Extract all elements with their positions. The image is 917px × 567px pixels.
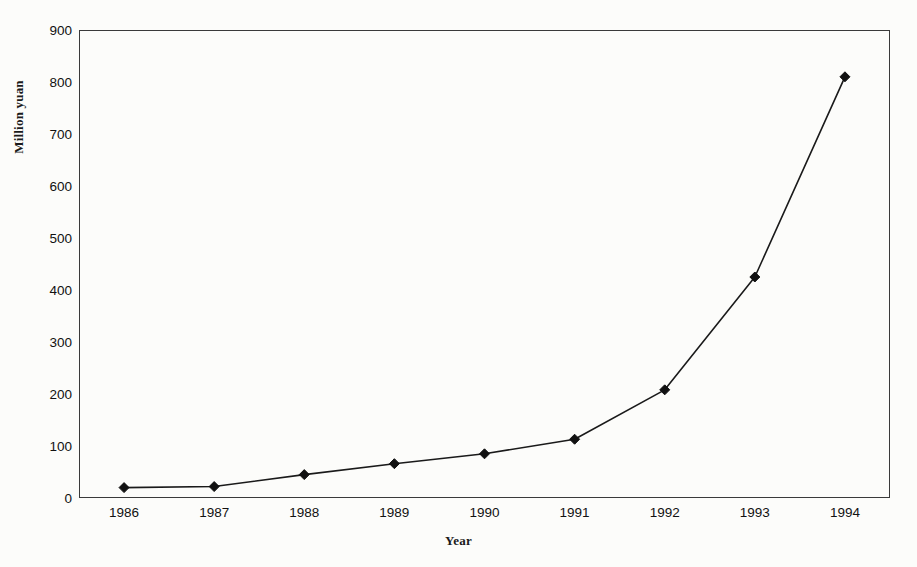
x-axis-tick-label: 1989 <box>349 505 439 520</box>
x-axis-tick-label: 1987 <box>169 505 259 520</box>
x-axis-tick-label: 1993 <box>710 505 800 520</box>
y-axis-tick-label: 700 <box>4 127 72 142</box>
x-axis-tick-label: 1994 <box>800 505 890 520</box>
y-axis-tick-label: 300 <box>4 335 72 350</box>
x-axis-tick-label: 1986 <box>79 505 169 520</box>
y-axis-tick-label: 800 <box>4 75 72 90</box>
x-axis-tick-label: 1988 <box>259 505 349 520</box>
x-axis-tick-label: 1990 <box>440 505 530 520</box>
y-axis-tick-label: 500 <box>4 231 72 246</box>
y-axis-tick-label: 100 <box>4 439 72 454</box>
y-axis-tick-label: 400 <box>4 283 72 298</box>
chart-figure: Million yuan 010020030040050060070080090… <box>0 0 917 567</box>
plot-area-frame <box>79 30 890 498</box>
y-axis-tick-labels: 0100200300400500600700800900 <box>0 0 72 567</box>
y-axis-tick-label: 600 <box>4 179 72 194</box>
y-axis-tick-label: 900 <box>4 23 72 38</box>
x-axis-title: Year <box>0 533 917 549</box>
y-axis-tick-label: 200 <box>4 387 72 402</box>
y-axis-tick-label: 0 <box>4 491 72 506</box>
x-axis-tick-label: 1991 <box>530 505 620 520</box>
x-axis-tick-label: 1992 <box>620 505 710 520</box>
